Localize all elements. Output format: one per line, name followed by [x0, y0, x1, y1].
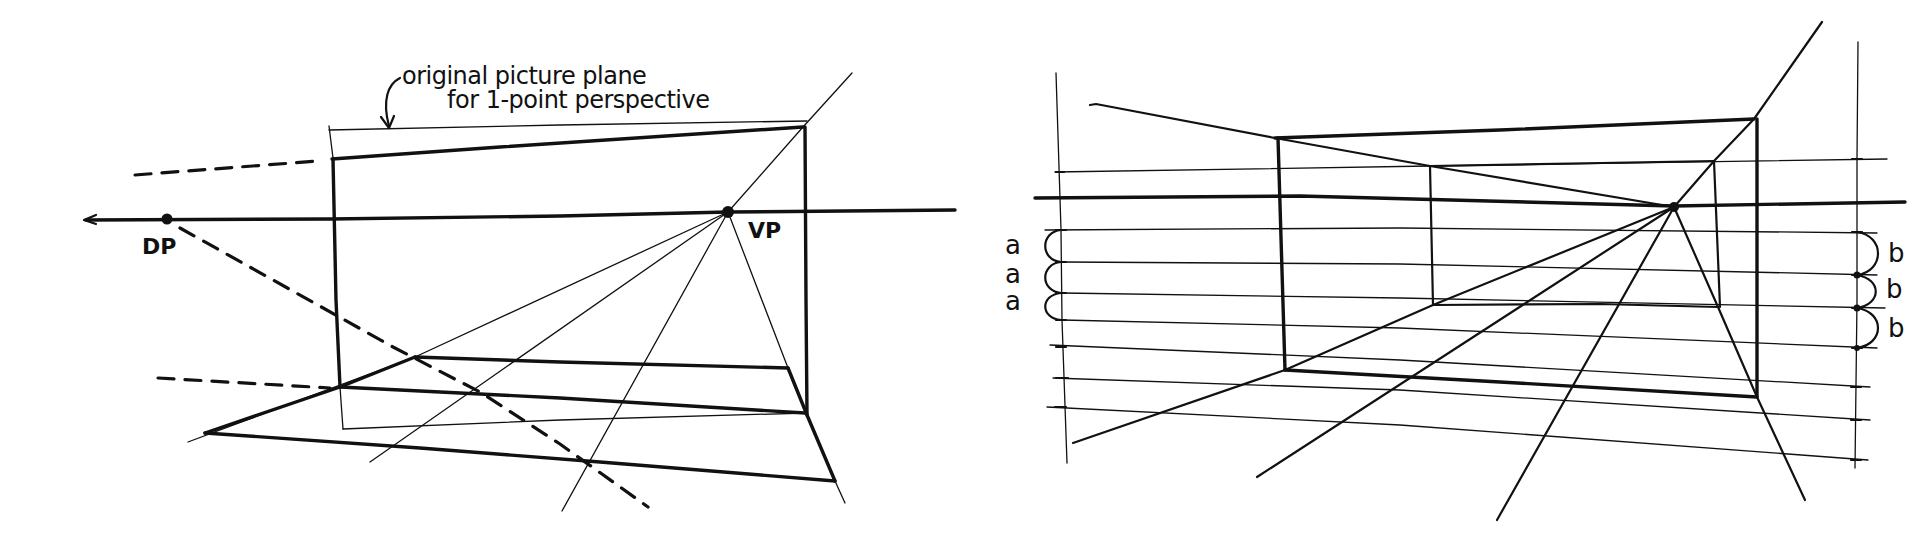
b-interval-arc-2	[1857, 275, 1876, 308]
picture-plane-left-edge-lower	[340, 387, 343, 429]
original-picture-plane-top	[329, 121, 807, 130]
vp-ray-r1	[1073, 207, 1674, 443]
guide-line-5	[1062, 320, 1877, 348]
top-left-diagonal	[1090, 104, 1674, 207]
a-interval-arc-1	[1045, 230, 1061, 262]
a-label-1: a	[1005, 230, 1021, 260]
outer-frame-bottom	[1285, 370, 1757, 397]
b-label-1: b	[1888, 238, 1905, 268]
right-measuring-line	[1855, 42, 1858, 468]
b-interval-arc-3	[1857, 308, 1878, 348]
picture-plane-left-edge	[333, 159, 340, 387]
a-interval-arc-3	[1045, 293, 1061, 320]
vp-ray-r2	[1257, 207, 1674, 477]
perspective-sketch-canvas: VP DP original picture plane for 1-point…	[0, 0, 1931, 543]
floor-front-line	[205, 433, 835, 481]
original-picture-plane-left	[329, 126, 333, 158]
picture-plane-top-edge	[332, 127, 803, 159]
b-label-3: b	[1888, 313, 1905, 343]
inner-frame-bottom	[1433, 304, 1718, 307]
a-interval-arc-2	[1045, 262, 1061, 293]
vp-ray-upper-right	[728, 73, 852, 212]
a-label-3: a	[1005, 286, 1021, 316]
b-tick-dot	[1854, 272, 1861, 279]
lower-dashed-extension	[158, 378, 330, 388]
vp-label: VP	[748, 218, 781, 243]
horizon-line-right	[1035, 196, 1905, 206]
vanishing-point-dot	[722, 206, 734, 218]
outer-frame-left	[1278, 138, 1285, 370]
vp-ray-r3	[1497, 207, 1674, 520]
horizon-line	[86, 210, 955, 220]
b-interval-arc-1	[1857, 232, 1878, 275]
b-tick-dot	[1854, 345, 1860, 351]
inner-frame-right	[1714, 161, 1720, 307]
guide-line-3	[1062, 262, 1877, 275]
inner-frame-left	[1430, 166, 1433, 305]
original-picture-plane-bottom	[343, 413, 807, 429]
floor-right-edge-ext	[835, 481, 845, 503]
inner-frame-top	[1430, 161, 1714, 166]
outer-frame-top	[1275, 119, 1754, 138]
vp-ray-2	[370, 212, 728, 462]
b-label-2: b	[1886, 274, 1903, 304]
vp-ray-r4	[1674, 207, 1805, 500]
guide-line-8	[1047, 407, 1868, 460]
floor-far-line	[415, 357, 788, 368]
vp-ray-1	[188, 212, 728, 442]
upper-right-ray	[1674, 22, 1822, 207]
dp-dashed-diagonal	[180, 228, 648, 507]
right-figure: a a a b b b	[1005, 22, 1905, 520]
left-figure: VP DP original picture plane for 1-point…	[84, 62, 955, 511]
floor-middle-line	[340, 387, 805, 413]
dp-label: DP	[142, 234, 176, 259]
vanishing-point-dot-right	[1669, 202, 1679, 212]
b-tick-dot	[1854, 305, 1861, 312]
left-measuring-line	[1056, 73, 1067, 463]
annotation-line-2: for 1-point perspective	[447, 86, 710, 114]
guide-line-2	[1045, 228, 1877, 233]
floor-right-edge	[788, 368, 835, 481]
diagonal-point-dot	[162, 214, 173, 225]
upper-dashed-extension	[135, 161, 318, 175]
picture-plane-right-edge	[805, 127, 807, 415]
a-label-2: a	[1005, 259, 1021, 289]
